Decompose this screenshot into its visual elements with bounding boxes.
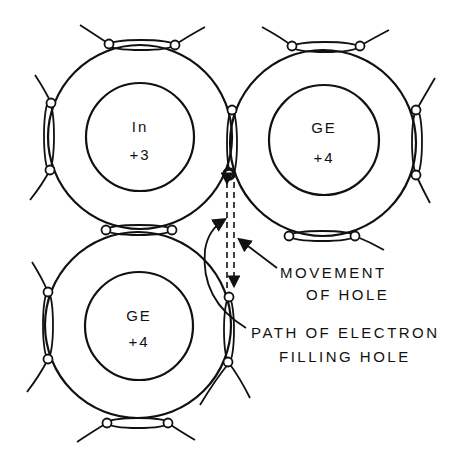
atom-symbol: GE	[126, 307, 152, 324]
hole	[224, 169, 234, 179]
electron	[44, 355, 53, 364]
nucleus-core	[85, 272, 193, 380]
electron	[105, 40, 114, 49]
nucleus-core	[86, 83, 194, 191]
electron	[171, 41, 180, 50]
outer-shell	[230, 50, 416, 236]
atom-charge: +3	[129, 146, 150, 163]
electron	[46, 166, 55, 175]
electron	[412, 106, 421, 115]
electron	[356, 42, 365, 51]
covalent-bonds	[27, 25, 435, 442]
label-of-hole: OF HOLE	[306, 286, 389, 303]
electron	[168, 226, 177, 235]
outer-shell	[48, 45, 232, 229]
hole-movement-pointer	[240, 240, 277, 268]
electron	[44, 288, 53, 297]
electrons	[44, 40, 421, 428]
electron	[285, 232, 294, 241]
label-filling-hole: FILLING HOLE	[279, 348, 411, 365]
atom-charge: +4	[128, 333, 149, 350]
electron	[224, 358, 233, 367]
electron	[47, 99, 56, 108]
electron	[228, 106, 237, 115]
electron	[351, 232, 360, 241]
nucleus-core	[269, 85, 379, 195]
atom-germanium-top: GE +4	[230, 50, 416, 236]
electron	[412, 171, 421, 180]
electron-path-arrow	[205, 220, 246, 328]
electron	[288, 42, 297, 51]
atom-symbol: GE	[311, 119, 337, 136]
label-path-of-electron: PATH OF ELECTRON	[251, 324, 440, 341]
atom-indium: In +3	[48, 45, 232, 229]
electron	[164, 419, 173, 428]
electron	[225, 293, 234, 302]
label-movement: MOVEMENT	[280, 264, 387, 281]
atom-germanium-bottom: GE +4	[45, 232, 231, 418]
atom-symbol: In	[132, 118, 149, 135]
outer-shell	[45, 232, 231, 418]
crystal-lattice-diagram: In +3 GE +4 GE +4	[0, 0, 469, 462]
electron	[103, 419, 112, 428]
electron	[102, 226, 111, 235]
atom-charge: +4	[313, 149, 334, 166]
